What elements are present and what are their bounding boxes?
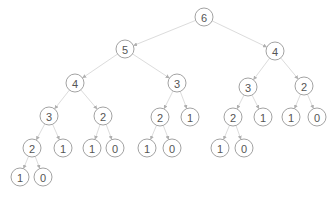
node-label: 1 [217, 143, 223, 155]
tree-node: 3 [40, 107, 58, 125]
node-label: 1 [17, 172, 23, 184]
node-label: 0 [314, 112, 320, 124]
tree-edge [81, 90, 97, 109]
tree-edge [252, 95, 259, 108]
node-label: 1 [260, 112, 266, 124]
node-label: 3 [245, 82, 251, 94]
tree-node: 0 [106, 139, 124, 157]
tree-edge [180, 91, 186, 108]
tree-node: 4 [266, 42, 284, 60]
tree-edge [53, 124, 60, 139]
tree-node: 0 [308, 108, 326, 126]
node-label: 2 [230, 112, 236, 124]
node-label: 2 [29, 143, 35, 155]
tree-node: 2 [295, 77, 313, 95]
tree-node: 3 [239, 78, 257, 96]
node-label: 6 [201, 12, 207, 24]
tree-edge [164, 91, 173, 108]
tree-node: 2 [94, 107, 112, 125]
tree-node: 1 [181, 108, 199, 126]
tree-edge [83, 54, 118, 78]
tree-node: 1 [254, 108, 272, 126]
node-label: 0 [112, 143, 118, 155]
tree-node: 0 [34, 168, 52, 186]
node-label: 2 [301, 81, 307, 93]
tree-edge [35, 156, 39, 168]
node-label: 2 [157, 112, 163, 124]
node-label: 4 [272, 46, 278, 58]
tree-node: 1 [138, 139, 156, 157]
tree-node: 3 [168, 74, 186, 92]
node-label: 4 [72, 78, 78, 90]
tree-edge [24, 156, 29, 168]
node-label: 0 [169, 143, 175, 155]
tree-edge [133, 54, 170, 78]
node-label: 3 [174, 78, 180, 90]
tree-edge [95, 125, 100, 140]
node-label: 5 [122, 44, 128, 56]
tree-node: 6 [195, 8, 213, 26]
tree-node: 1 [282, 108, 300, 126]
tree-edge [36, 124, 44, 140]
node-label: 1 [187, 112, 193, 124]
tree-node: 0 [235, 139, 253, 157]
tree-node: 2 [23, 139, 41, 157]
tree-node: 4 [66, 74, 84, 92]
node-layer: 6544332322121102110101010 [11, 8, 326, 186]
tree-edge [163, 125, 168, 139]
node-label: 2 [100, 111, 106, 123]
tree-edge [281, 58, 298, 79]
tree-node: 2 [151, 108, 169, 126]
tree-node: 1 [211, 139, 229, 157]
tree-edge [212, 21, 266, 47]
node-label: 1 [144, 143, 150, 155]
tree-edge [224, 125, 230, 139]
tree-edge [254, 58, 270, 79]
node-label: 0 [241, 143, 247, 155]
tree-edge [307, 94, 313, 108]
tree-edge [55, 90, 70, 108]
tree-edge [295, 94, 301, 108]
tree-node: 1 [11, 168, 29, 186]
tree-node: 5 [116, 40, 134, 58]
node-label: 1 [89, 143, 95, 155]
tree-node: 1 [54, 139, 72, 157]
tree-node: 2 [224, 108, 242, 126]
tree-node: 0 [163, 139, 181, 157]
node-label: 0 [40, 172, 46, 184]
node-label: 3 [46, 111, 52, 123]
tree-edge [237, 95, 244, 108]
tree-edge [236, 125, 241, 139]
tree-edge [106, 124, 112, 139]
tree-edge [134, 20, 196, 45]
tree-diagram: 6544332322121102110101010 [0, 0, 335, 198]
tree-edge [151, 125, 157, 139]
node-label: 1 [288, 112, 294, 124]
node-label: 1 [60, 143, 66, 155]
tree-node: 1 [83, 139, 101, 157]
